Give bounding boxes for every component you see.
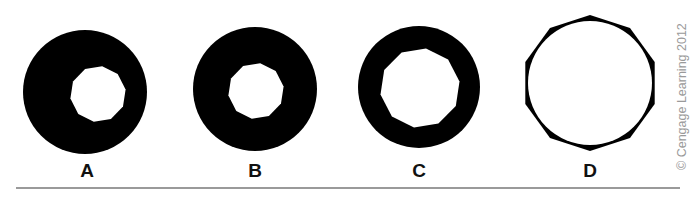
panel-d-shape bbox=[525, 15, 654, 151]
panel-a-shape bbox=[23, 30, 147, 154]
aperture-opening bbox=[528, 21, 652, 145]
panel-label-a: A bbox=[67, 161, 107, 181]
copyright-credit: © Cengage Learning 2012 bbox=[675, 23, 689, 170]
lens-aperture-figure: A B C D © Cengage Learning 2012 bbox=[0, 0, 700, 197]
bottom-rule bbox=[16, 187, 680, 189]
panel-b-shape bbox=[193, 27, 317, 151]
panel-label-b: B bbox=[235, 161, 275, 181]
panel-label-c: C bbox=[399, 161, 439, 181]
panel-label-d: D bbox=[570, 161, 610, 181]
panel-c-shape bbox=[358, 26, 480, 148]
